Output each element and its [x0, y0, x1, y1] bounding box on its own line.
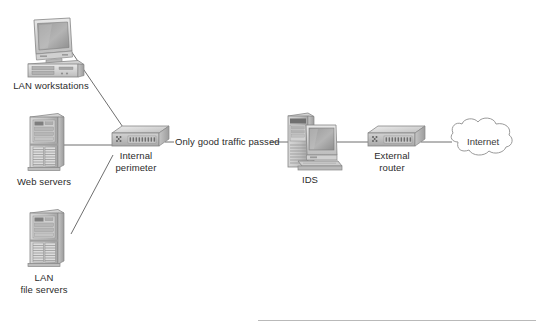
tower-server-icon-file	[28, 210, 64, 267]
tower-server-icon-web	[28, 114, 64, 171]
label-internal-perimeter: Internal perimeter	[104, 150, 168, 173]
desktop-computer-icon	[28, 18, 84, 77]
label-lan-file-servers: LAN file servers	[8, 272, 80, 295]
label-ids: IDS	[288, 174, 332, 186]
diagram-canvas	[0, 0, 536, 329]
label-internet: Internet	[467, 136, 499, 147]
bottom-divider	[258, 320, 536, 321]
switch-icon	[112, 126, 169, 146]
label-lan-workstations: LAN workstations	[8, 80, 94, 92]
label-external-router: External router	[363, 150, 421, 173]
label-web-servers: Web servers	[8, 176, 80, 188]
label-only-good-traffic-passed: Only good traffic passed	[175, 136, 280, 147]
network-diagram: LAN workstations Web servers LAN file se…	[0, 0, 536, 329]
server-with-monitor-icon	[288, 113, 342, 170]
router-icon	[368, 126, 425, 146]
